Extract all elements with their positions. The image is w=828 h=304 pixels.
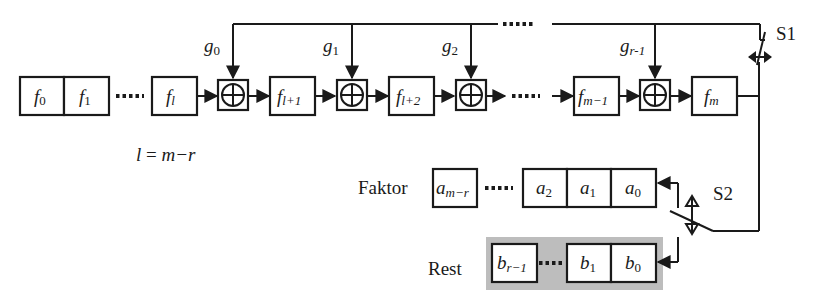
xor-gate: [337, 80, 367, 110]
xor-gate: [456, 80, 486, 110]
remainder-label: Rest: [428, 258, 463, 279]
xor-gate: [640, 80, 670, 110]
coef-g2: g2: [442, 35, 458, 58]
switch-s1-label: S1: [776, 23, 796, 44]
feedback-bus: [233, 24, 765, 78]
switch-s2-label: S2: [713, 183, 733, 204]
switch-s2: S2: [658, 183, 759, 262]
switch-s1: S1: [748, 23, 796, 231]
coef-g1: g1: [323, 35, 339, 58]
equation-l: l = m−r: [136, 144, 196, 165]
coefficient-labels: g0 g1 g2 gr-1: [204, 35, 645, 58]
xor-gate: [218, 80, 248, 110]
quotient-label: Faktor: [358, 177, 408, 198]
remainder-register: Rest br−1 b1 b0: [428, 237, 663, 290]
quotient-register: Faktor am−r a2 a1 a0: [358, 169, 656, 207]
coef-gr-1: gr-1: [620, 35, 645, 58]
coef-g0: g0: [204, 35, 220, 58]
lfsr-division-diagram: g0 g1 g2 gr-1 f0 f1 fl fl+1: [0, 0, 828, 304]
dividend-register: f0 f1 fl fl+1 fl+2: [20, 77, 759, 115]
